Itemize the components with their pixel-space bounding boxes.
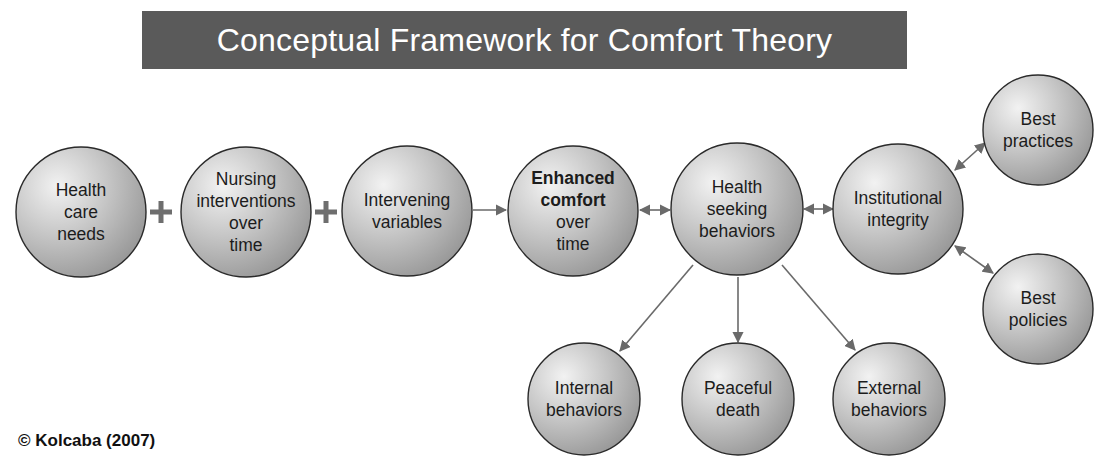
- node-label-line: death: [716, 400, 760, 420]
- node-label-line: over: [229, 213, 263, 233]
- node-label-line: seeking: [707, 199, 767, 219]
- node-label-line: integrity: [867, 210, 929, 230]
- node-label-line: behaviors: [699, 221, 775, 241]
- node-circle: [342, 146, 472, 276]
- node-institutional-integrity: Institutionalintegrity: [833, 144, 963, 274]
- plus-operator-icon: [150, 201, 172, 223]
- node-external-behaviors: Externalbehaviors: [833, 343, 945, 455]
- bidirectional-arrow-institutional-integrity-to-best-policies: [955, 246, 993, 273]
- node-label-line: behaviors: [851, 400, 927, 420]
- node-label-line: Health: [56, 180, 107, 200]
- node-label-line: Peaceful: [704, 378, 772, 398]
- node-label-line: practices: [1003, 131, 1073, 151]
- node-label-line: over: [556, 212, 590, 232]
- node-best-policies: Bestpolicies: [983, 254, 1093, 364]
- node-enhanced-comfort: Enhancedcomfortovertime: [508, 146, 638, 276]
- node-label-line: Best: [1020, 109, 1055, 129]
- node-label-line: time: [229, 235, 262, 255]
- node-health-care-needs: Healthcareneeds: [16, 147, 146, 277]
- nodes-layer: HealthcareneedsNursinginterventionsovert…: [16, 75, 1093, 455]
- copyright-notice: © Kolcaba (2007): [18, 431, 155, 451]
- node-circle: [983, 75, 1093, 185]
- node-circle: [983, 254, 1093, 364]
- node-label-line: Health: [712, 177, 763, 197]
- node-label-line: variables: [372, 212, 442, 232]
- node-label-line: Internal: [555, 378, 613, 398]
- bidirectional-arrow-institutional-integrity-to-best-practices: [955, 143, 985, 170]
- node-best-practices: Bestpractices: [983, 75, 1093, 185]
- node-label-line: Institutional: [854, 188, 943, 208]
- node-label-line: External: [857, 378, 921, 398]
- comfort-theory-diagram: HealthcareneedsNursinginterventionsovert…: [0, 0, 1113, 472]
- node-label-line: Nursing: [216, 169, 276, 189]
- node-label-line: time: [556, 234, 589, 254]
- node-circle: [528, 343, 640, 455]
- node-circle: [833, 144, 963, 274]
- node-label-line: Best: [1020, 288, 1055, 308]
- arrow-health-seeking-behaviors-to-internal-behaviors: [620, 265, 693, 351]
- node-health-seeking-behaviors: Healthseekingbehaviors: [671, 143, 803, 275]
- node-label-line: Intervening: [364, 190, 451, 210]
- node-label-line: interventions: [196, 191, 295, 211]
- node-label-line: needs: [57, 224, 105, 244]
- node-label-line: Enhanced: [531, 168, 615, 188]
- node-label-line: behaviors: [546, 400, 622, 420]
- node-circle: [181, 147, 311, 277]
- node-label-line: policies: [1009, 310, 1068, 330]
- node-nursing-interventions: Nursinginterventionsovertime: [181, 147, 311, 277]
- node-label-line: comfort: [540, 190, 605, 210]
- node-peaceful-death: Peacefuldeath: [682, 343, 794, 455]
- node-circle: [682, 343, 794, 455]
- node-circle: [508, 146, 638, 276]
- plus-operator-icon: [315, 201, 337, 223]
- arrow-health-seeking-behaviors-to-external-behaviors: [782, 265, 855, 350]
- node-label-line: care: [64, 202, 98, 222]
- node-internal-behaviors: Internalbehaviors: [528, 343, 640, 455]
- node-circle: [833, 343, 945, 455]
- node-intervening-variables: Interveningvariables: [342, 146, 472, 276]
